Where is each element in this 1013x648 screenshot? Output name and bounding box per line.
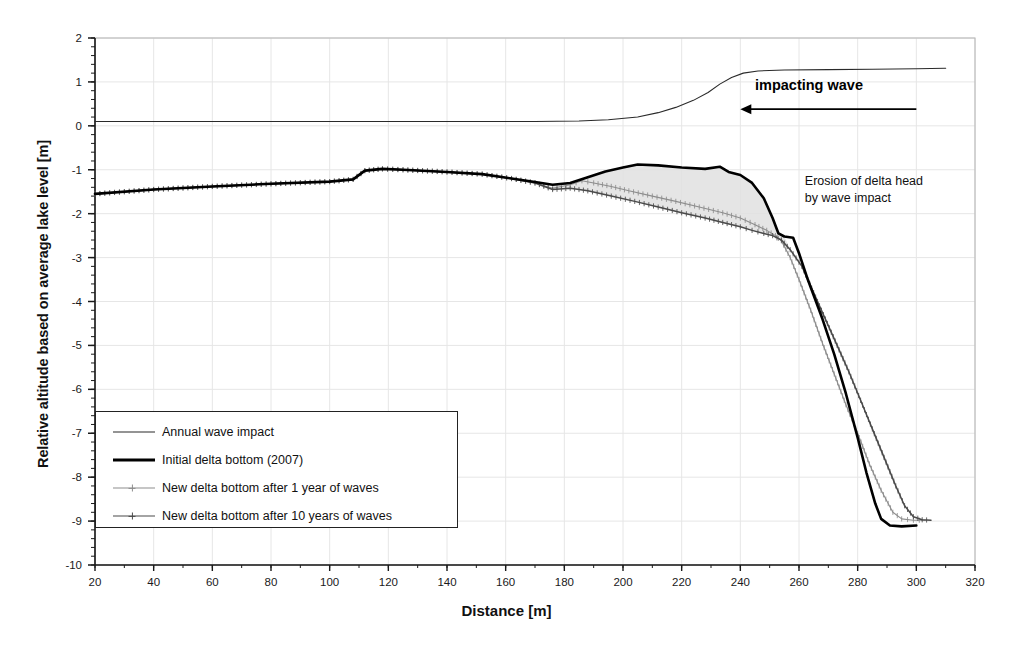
annotation-impacting-wave: impacting wave	[755, 77, 863, 93]
y-tick-label: -1	[40, 164, 82, 176]
x-tick-label: 200	[613, 576, 632, 588]
x-axis-title: Distance [m]	[0, 602, 1013, 619]
x-tick-label: 60	[206, 576, 219, 588]
chart-legend: Annual wave impact Initial delta bottom …	[95, 411, 458, 528]
x-tick-label: 20	[89, 576, 102, 588]
arrow-head-icon	[740, 104, 751, 114]
legend-item-new-delta-1-year: New delta bottom after 1 year of waves	[96, 474, 457, 502]
y-tick-label: 2	[40, 32, 82, 44]
x-tick-label: 240	[731, 576, 750, 588]
y-tick-label: -5	[40, 339, 82, 351]
legend-item-initial-delta-bottom: Initial delta bottom (2007)	[96, 446, 457, 474]
y-tick-label: -2	[40, 208, 82, 220]
x-tick-label: 160	[496, 576, 515, 588]
x-tick-label: 80	[265, 576, 278, 588]
y-tick-label: 1	[40, 76, 82, 88]
x-tick-label: 120	[379, 576, 398, 588]
annotation-erosion-line1: Erosion of delta head	[805, 173, 923, 190]
y-tick-label: 0	[40, 120, 82, 132]
chart-canvas	[0, 0, 1013, 648]
x-tick-label: 100	[320, 576, 339, 588]
y-tick-label: -10	[40, 559, 82, 571]
y-tick-label: -7	[40, 427, 82, 439]
legend-cross-icon-1year	[110, 481, 158, 495]
legend-line-icon-initial	[110, 453, 158, 467]
x-tick-label: 300	[907, 576, 926, 588]
x-tick-label: 260	[789, 576, 808, 588]
y-tick-label: -4	[40, 296, 82, 308]
x-tick-label: 180	[555, 576, 574, 588]
x-tick-label: 280	[848, 576, 867, 588]
x-tick-label: 40	[147, 576, 160, 588]
chart-figure: Relative altitude based on average lake …	[0, 0, 1013, 648]
y-tick-label: -3	[40, 252, 82, 264]
legend-label: New delta bottom after 10 years of waves	[162, 509, 392, 523]
legend-label: Initial delta bottom (2007)	[162, 453, 303, 467]
y-tick-label: -9	[40, 515, 82, 527]
legend-label: Annual wave impact	[162, 425, 274, 439]
annotation-erosion-line2: by wave impact	[805, 190, 891, 207]
y-tick-label: -6	[40, 383, 82, 395]
x-tick-label: 220	[672, 576, 691, 588]
legend-cross-icon-10years	[110, 509, 158, 523]
y-tick-label: -8	[40, 471, 82, 483]
legend-item-annual-wave-impact: Annual wave impact	[96, 418, 457, 446]
legend-item-new-delta-10-years: New delta bottom after 10 years of waves	[96, 502, 457, 530]
legend-label: New delta bottom after 1 year of waves	[162, 481, 379, 495]
x-tick-label: 320	[965, 576, 984, 588]
legend-line-icon-annual	[110, 425, 158, 439]
x-tick-label: 140	[437, 576, 456, 588]
